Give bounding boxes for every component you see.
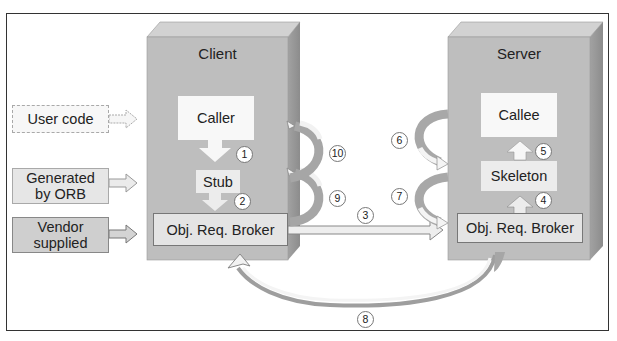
step-badge-8: 8 [357,311,374,328]
legend-generated-line1: Generated [26,170,95,186]
step-badge-7: 7 [391,188,408,205]
step-badge-5: 5 [535,143,552,160]
arrow-step-6 [419,114,448,170]
legend-vendor-line2: supplied [33,235,87,251]
legend-vendor-supplied: Vendor supplied [12,217,109,253]
legend-user-code: User code [12,105,109,133]
legend-arrow-user [109,110,137,128]
legend-arrow-vendor [109,225,137,243]
legend-generated-by-orb: Generated by ORB [12,168,109,204]
server-orb-box: Obj. Req. Broker [457,213,583,243]
legend-generated-line2: by ORB [35,186,86,202]
client-orb-box: Obj. Req. Broker [153,213,288,246]
step-badge-4: 4 [535,192,552,209]
caller-box: Caller [178,96,254,140]
skeleton-box: Skeleton [481,161,557,191]
step-badge-10: 10 [329,145,346,162]
legend-arrow-generated [109,174,137,192]
step-badge-2: 2 [234,193,251,210]
callee-box: Callee [481,93,557,137]
client-title: Client [147,45,288,62]
step-badge-1: 1 [236,146,253,163]
step-badge-3: 3 [357,207,374,224]
legend-vendor-line1: Vendor [38,219,84,235]
legend-user-code-label: User code [27,111,93,127]
stub-box: Stub [196,170,240,193]
step-badge-9: 9 [329,190,346,207]
step-badge-6: 6 [391,132,408,149]
arrow-step-7 [419,177,448,229]
server-title: Server [448,45,590,62]
